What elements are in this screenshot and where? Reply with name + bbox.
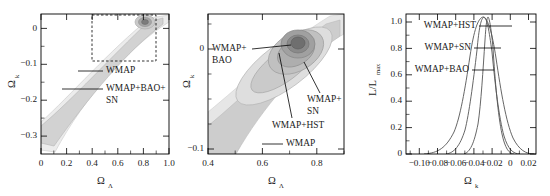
left-xtick-5: 1.0	[163, 158, 175, 168]
right-ytick-1: 0.2	[391, 122, 403, 132]
right-ytick-0: 0	[397, 148, 402, 158]
right-xaxis-title: Ω k	[464, 175, 479, 188]
right-annotation-wmap-sn-label: WMAP+SN	[425, 42, 472, 52]
right-ytick-5: 1.0	[391, 16, 403, 26]
left-annotation-wmap-bao-sn-label: WMAP+BAO+	[106, 83, 166, 93]
right-likelihood-curves	[424, 17, 534, 154]
middle-xtick-2: 0.8	[311, 158, 323, 168]
left-xtick-3: 0.6	[112, 158, 124, 168]
left-xtick-2: 0.4	[86, 158, 98, 168]
left-annotation-wmap: WMAP	[78, 65, 135, 75]
left-xaxis-title: Ω Λ	[97, 175, 113, 188]
panel-right: −0.10 −0.08 −0.06 −0.04 −0.02 0 0.02 0 0…	[368, 0, 550, 196]
right-annotation-wmap-bao: WMAP+BAO	[415, 64, 494, 74]
middle-annotation-wmap: WMAP	[262, 138, 315, 148]
middle-contour-shading	[208, 14, 344, 154]
left-annotation-wmap-bao-sn-label2: SN	[106, 95, 118, 105]
left-ytick-1: −0.1	[20, 58, 37, 68]
middle-ytick-1: −0.1	[187, 143, 204, 153]
left-xaxis-title-main: Ω	[97, 175, 105, 186]
left-ytick-3: −0.3	[20, 130, 37, 140]
middle-yaxis-title: Ω k	[181, 74, 194, 88]
curve-wmap-bao	[464, 17, 514, 154]
middle-contour-wmap-bao-core	[291, 37, 305, 49]
left-yaxis-title-sub: k	[13, 74, 20, 78]
left-xaxis-title-sub: Λ	[108, 182, 113, 189]
figure-root: 0 0.2 0.4 0.6 0.8 1.0 0 −0.1 −0.2 −0.3 Ω…	[0, 0, 550, 196]
right-ytick-2: 0.4	[391, 95, 403, 105]
right-ytick-4: 0.8	[391, 43, 403, 53]
left-contour-bao-sn-core	[142, 20, 149, 25]
middle-annotation-wmap-hst-label: WMAP+HST	[272, 120, 324, 130]
middle-annotation-wmap-bao-label2: BAO	[212, 55, 232, 65]
right-yaxis-title: L/L max	[368, 63, 381, 96]
right-annotation-wmap-hst-label: WMAP+HST	[424, 20, 476, 30]
middle-yaxis-title-sub: k	[188, 74, 195, 78]
right-xaxis-title-main: Ω	[464, 175, 472, 186]
right-xtick-4: −0.02	[481, 158, 503, 168]
left-ytick-0: 0	[32, 23, 37, 33]
left-xtick-0: 0	[39, 158, 44, 168]
middle-annotation-wmap-sn-label2: SN	[307, 106, 319, 116]
right-xtick-6: 0.02	[520, 158, 536, 168]
left-band-wmap-68	[41, 18, 163, 146]
curve-wmap-sn	[446, 17, 520, 154]
middle-annotation-wmap-label: WMAP	[286, 138, 315, 148]
middle-xtick-1: 0.6	[257, 158, 269, 168]
left-annotation-wmap-label: WMAP	[106, 65, 135, 75]
panel-right-svg: −0.10 −0.08 −0.06 −0.04 −0.02 0 0.02 0 0…	[368, 0, 550, 196]
right-axes-frame	[406, 14, 536, 154]
middle-ytick-0: 0	[199, 43, 204, 53]
middle-xaxis-title-sub: Λ	[279, 182, 284, 189]
middle-xaxis-title: Ω Λ	[268, 175, 284, 188]
middle-annotation-wmap-sn-label: WMAP+	[307, 94, 341, 104]
panel-middle: 0.4 0.6 0.8 0 −0.1 Ω Λ Ω k WMAP+ BAO WMA…	[180, 0, 372, 196]
right-annotation-wmap-bao-label: WMAP+BAO	[415, 64, 469, 74]
right-ytick-3: 0.6	[391, 69, 403, 79]
panel-left: 0 0.2 0.4 0.6 0.8 1.0 0 −0.1 −0.2 −0.3 Ω…	[0, 0, 185, 196]
middle-xaxis-title-main: Ω	[268, 175, 276, 186]
right-annotation-wmap-sn: WMAP+SN	[425, 42, 501, 52]
panel-middle-svg: 0.4 0.6 0.8 0 −0.1 Ω Λ Ω k WMAP+ BAO WMA…	[180, 0, 372, 196]
middle-xtick-0: 0.4	[202, 158, 214, 168]
panel-left-svg: 0 0.2 0.4 0.6 0.8 1.0 0 −0.1 −0.2 −0.3 Ω…	[0, 0, 185, 196]
right-yaxis-title-main: L/L	[368, 80, 378, 96]
left-xtick-4: 0.8	[138, 158, 150, 168]
curve-wmap-hst	[424, 17, 534, 154]
left-ytick-2: −0.2	[20, 94, 37, 104]
left-xtick-1: 0.2	[61, 158, 73, 168]
middle-annotation-wmap-bao-label: WMAP+	[212, 43, 246, 53]
right-annotation-wmap-hst: WMAP+HST	[424, 20, 512, 30]
right-yaxis-title-sub: max	[374, 63, 381, 75]
right-xaxis-title-sub: k	[475, 182, 479, 189]
left-yaxis-title: Ω k	[6, 74, 19, 88]
left-yaxis-title-main: Ω	[6, 80, 17, 88]
middle-yaxis-title-main: Ω	[181, 80, 192, 88]
right-xtick-5: 0	[508, 158, 513, 168]
